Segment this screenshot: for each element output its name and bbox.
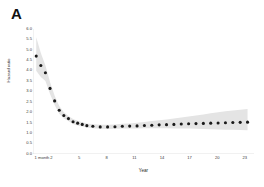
data-point: [99, 125, 102, 128]
plot-area: [33, 29, 254, 154]
data-point: [165, 123, 168, 126]
y-axis-tick: 0.0: [8, 152, 32, 156]
data-point: [172, 123, 175, 126]
data-point: [106, 125, 109, 128]
y-axis-tick: 4.5: [8, 58, 32, 62]
data-point: [62, 114, 65, 117]
hazard-ratio-scatter-plot: [33, 29, 254, 154]
x-axis-tick: 2: [50, 156, 52, 160]
data-point: [48, 87, 51, 90]
x-axis-tick: 14: [160, 156, 165, 160]
data-point: [143, 124, 146, 127]
y-axis-tick: 5.0: [8, 48, 32, 52]
data-point: [180, 122, 183, 125]
panel-letter: A: [11, 6, 22, 21]
x-axis-tick: 23: [243, 156, 248, 160]
data-point: [91, 125, 94, 128]
y-axis-tick: 3.0: [8, 89, 32, 93]
y-axis-tick: 2.5: [8, 100, 32, 104]
y-axis-tick: 3.5: [8, 79, 32, 83]
x-axis-tick-labels: 1 month2581114172023: [33, 156, 254, 166]
data-point: [81, 123, 84, 126]
data-point: [136, 124, 139, 127]
y-axis-tick: 2.0: [8, 110, 32, 114]
y-axis-tick-labels: 6.05.55.04.54.03.53.02.52.01.51.00.50.0: [5, 29, 32, 154]
data-point: [113, 125, 116, 128]
data-point: [85, 124, 88, 127]
data-point: [224, 121, 227, 124]
caption-divider: [0, 181, 264, 182]
data-point: [76, 122, 79, 125]
y-axis-tick: 6.0: [8, 27, 32, 31]
plot-background: [33, 29, 254, 154]
data-point: [58, 109, 61, 112]
data-point: [121, 125, 124, 128]
y-axis-tick: 0.5: [8, 141, 32, 145]
data-point: [39, 64, 42, 67]
data-point: [239, 121, 242, 124]
y-axis-tick: 4.0: [8, 68, 32, 72]
x-axis-tick: 8: [106, 156, 108, 160]
x-axis-tick: 1 month: [35, 156, 50, 160]
y-axis-tick: 1.0: [8, 131, 32, 135]
data-point: [202, 122, 205, 125]
data-point: [246, 121, 249, 124]
x-axis-tick: 17: [187, 156, 192, 160]
figure-panel: A Hazard ratio 6.05.55.04.54.03.53.02.52…: [0, 0, 264, 187]
data-point: [217, 121, 220, 124]
y-axis-tick: 5.5: [8, 37, 32, 41]
data-point: [35, 55, 38, 58]
y-axis-tick: 1.5: [8, 121, 32, 125]
data-point: [158, 123, 161, 126]
data-point: [209, 122, 212, 125]
data-point: [194, 122, 197, 125]
data-point: [67, 117, 70, 120]
x-axis-tick: 5: [78, 156, 80, 160]
data-point: [231, 121, 234, 124]
data-point: [53, 99, 56, 102]
data-point: [150, 124, 153, 127]
x-axis-label: Year: [33, 168, 254, 173]
data-point: [187, 122, 190, 125]
data-point: [44, 71, 47, 74]
x-axis-tick: 20: [215, 156, 220, 160]
data-point: [72, 120, 75, 123]
x-axis-tick: 11: [132, 156, 136, 160]
data-point: [128, 125, 131, 128]
